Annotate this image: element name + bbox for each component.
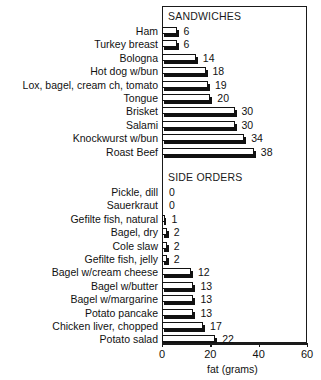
bar-row: Bologna14 [0, 53, 321, 66]
bar-value-label: 38 [261, 146, 273, 159]
x-axis-title-container: fat (grams) [0, 363, 321, 375]
bar [162, 228, 170, 239]
bar-face [162, 228, 167, 235]
bar-face [162, 121, 235, 128]
bar [162, 268, 194, 279]
bar-face [162, 309, 193, 316]
bar [162, 148, 257, 159]
bar-category-label: Brisket [126, 105, 158, 118]
bar-face [162, 295, 193, 302]
bar-row: Roast Beef38 [0, 147, 321, 160]
bar-row: Lox, bagel, cream ch, tomato19 [0, 80, 321, 93]
bar-row: Salami30 [0, 120, 321, 133]
bar-row: Sauerkraut0 [0, 200, 321, 213]
bar [162, 134, 247, 145]
bar-row: Hot dog w/bun18 [0, 66, 321, 79]
x-axis-tick [162, 343, 163, 347]
bar-row: Knockwurst w/bun34 [0, 133, 321, 146]
x-axis-tick [210, 343, 211, 347]
bar-category-label: Gefilte fish, jelly [84, 253, 158, 266]
bar-category-label: Ham [136, 25, 158, 38]
bar-value-label: 12 [198, 266, 210, 279]
bar [162, 121, 238, 132]
bar-face [162, 81, 208, 88]
bar-value-label: 13 [200, 307, 212, 320]
bar [162, 309, 196, 320]
bar [162, 54, 199, 65]
bar-value-label: 19 [215, 79, 227, 92]
x-axis-tick-label: 0 [159, 348, 165, 360]
bar [162, 295, 196, 306]
fat-grams-bar-chart: SANDWICHES SIDE ORDERS Ham6Turkey breast… [0, 0, 321, 380]
bar-category-label: Hot dog w/bun [90, 65, 158, 78]
bar-category-label: Bagel w/cream cheese [52, 266, 158, 279]
bar-value-label: 34 [251, 132, 263, 145]
x-axis-tick [307, 343, 308, 347]
bar-row: Turkey breast6 [0, 39, 321, 52]
bar-category-label: Potato pancake [85, 307, 158, 320]
bar-category-label: Pickle, dill [111, 186, 158, 199]
bar [162, 215, 167, 226]
bar-value-label: 6 [184, 25, 190, 38]
bar-row: Potato salad22 [0, 334, 321, 347]
bar-category-label: Lox, bagel, cream ch, tomato [23, 79, 158, 92]
bar-category-label: Gefilte fish, natural [70, 213, 158, 226]
bar-row: Potato pancake13 [0, 308, 321, 321]
bar [162, 94, 213, 105]
bar-category-label: Roast Beef [106, 146, 158, 159]
section-heading-sandwiches: SANDWICHES [168, 10, 241, 22]
bar-category-label: Bologna [119, 52, 158, 65]
bar-value-label: 20 [217, 92, 229, 105]
x-axis-tick-label: 40 [253, 348, 265, 360]
bar-face [162, 322, 203, 329]
bar-value-label: 1 [171, 213, 177, 226]
bar-row: Gefilte fish, natural1 [0, 214, 321, 227]
bar-face [162, 335, 215, 342]
bar-row: Bagel, dry2 [0, 227, 321, 240]
bar-category-label: Chicken liver, chopped [52, 320, 158, 333]
bar-face [162, 215, 165, 222]
bar-category-label: Bagel, dry [111, 226, 158, 239]
bar-face [162, 107, 235, 114]
bar-row: Bagel w/butter13 [0, 281, 321, 294]
x-axis-tick [259, 343, 260, 347]
bar-value-label: 13 [200, 293, 212, 306]
bar-face [162, 134, 244, 141]
bar-row: Pickle, dill0 [0, 187, 321, 200]
bar-row: Ham6 [0, 26, 321, 39]
bar [162, 322, 206, 333]
bar-face [162, 54, 196, 61]
bar [162, 27, 180, 38]
bar-face [162, 27, 177, 34]
bar-row: Cole slaw2 [0, 241, 321, 254]
bar-category-label: Knockwurst w/bun [73, 132, 158, 145]
bar-face [162, 94, 210, 101]
bar-row: Gefilte fish, jelly2 [0, 254, 321, 267]
bar [162, 67, 209, 78]
bar-value-label: 0 [169, 186, 175, 199]
bar-row: Bagel w/margarine13 [0, 294, 321, 307]
bar-row: Chicken liver, chopped17 [0, 321, 321, 334]
bar-value-label: 30 [242, 119, 254, 132]
bar [162, 107, 238, 118]
bar-face [162, 282, 193, 289]
bar-value-label: 2 [174, 226, 180, 239]
x-axis-title: fat (grams) [207, 363, 258, 375]
bar-row: Brisket30 [0, 106, 321, 119]
bar-face [162, 148, 254, 155]
bar [162, 255, 170, 266]
bar-value-label: 14 [203, 52, 215, 65]
bar-face [162, 40, 177, 47]
bar-value-label: 30 [242, 105, 254, 118]
bar-category-label: Turkey breast [94, 38, 158, 51]
bar-category-label: Bagel w/butter [91, 280, 158, 293]
x-axis-line [162, 343, 308, 345]
bar-face [162, 268, 191, 275]
bar [162, 81, 211, 92]
bar-value-label: 18 [213, 65, 225, 78]
bar [162, 242, 170, 253]
bar-category-label: Salami [126, 119, 158, 132]
bar-row: Bagel w/cream cheese12 [0, 267, 321, 280]
bar [162, 40, 180, 51]
bar-value-label: 6 [184, 38, 190, 51]
